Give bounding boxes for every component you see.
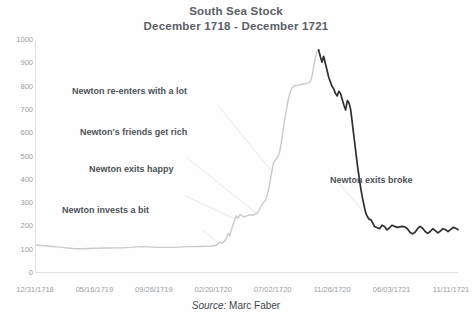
source-note: Source: Marc Faber [0,300,472,311]
y-axis-tick-label: 700 [1,106,33,114]
annotation-a2: Newton exits happy [89,164,174,175]
chart-title: South Sea Stock December 1718 - December… [0,4,472,34]
y-axis-tick-label: 600 [1,129,33,137]
plot-area [35,40,458,273]
y-axis-tick-label: 900 [1,59,33,67]
x-axis-tick-label: 06/03/1721 [373,285,411,294]
price-line-early-segment [36,50,319,249]
y-axis-tick-label: 300 [1,199,33,207]
source-value: Marc Faber [229,300,280,311]
annotation-a5: Newton exits broke [330,175,413,186]
annotation-a3: Newton's friends get rich [80,127,187,138]
source-label: Source: [192,300,226,311]
price-line-chart [36,40,459,273]
annotation-leader-line [218,105,273,173]
x-axis-tick-label: 12/31/1718 [16,285,54,294]
x-axis-tick-label: 11/11/1721 [433,285,469,294]
price-line-late-segment [319,50,459,234]
y-axis-tick-label: 400 [1,176,33,184]
x-axis-tick-label: 05/16/1719 [76,285,114,294]
y-axis-tick-label: 200 [1,222,33,230]
chart-container: South Sea Stock December 1718 - December… [0,0,472,321]
y-axis-labels: 01002003004005006007008009001000 [0,0,33,321]
annotation-leader-line [203,231,219,243]
x-axis-tick-label: 07/02/1720 [254,285,292,294]
y-axis-tick-label: 0 [1,269,33,277]
annotation-a4: Newton re-enters with a lot [72,86,187,97]
x-axis-tick-label: 11/26/1720 [314,285,351,294]
y-axis-tick-label: 100 [1,246,33,254]
annotation-leader-line [188,159,256,213]
annotation-a1: Newton invests a bit [62,205,149,216]
y-axis-tick-label: 1000 [1,36,33,44]
chart-title-line-2: December 1718 - December 1721 [0,19,472,34]
annotation-leader-line [186,196,235,219]
x-axis-labels: 12/31/171805/16/171909/26/171902/20/1720… [0,285,472,297]
y-axis-tick-label: 800 [1,83,33,91]
chart-title-line-1: South Sea Stock [0,4,472,19]
x-axis-tick-label: 09/26/1719 [135,285,173,294]
y-axis-tick-label: 500 [1,153,33,161]
x-axis-tick-label: 02/20/1720 [195,285,233,294]
